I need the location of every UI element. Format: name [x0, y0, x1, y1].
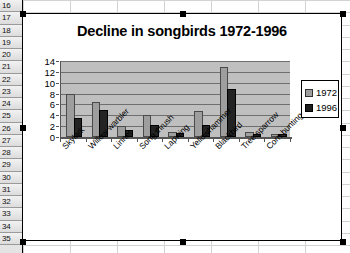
legend-swatch-icon: [305, 89, 313, 97]
x-axis-labels: SkylarkWillow warblerLinnetSong thrushLa…: [53, 140, 313, 230]
row-header-18[interactable]: 18: [0, 25, 22, 37]
chart-legend[interactable]: 19721996: [301, 80, 339, 118]
x-tick-mark: [111, 138, 112, 142]
x-tick-mark: [60, 138, 61, 142]
y-tick-mark-2: [56, 126, 59, 127]
handle-bottom-left[interactable]: [20, 239, 26, 245]
y-tick-label-4: 4: [35, 111, 55, 120]
row-header-28[interactable]: 28: [0, 147, 22, 159]
chart-title: Decline in songbirds 1972-1996: [23, 23, 341, 39]
row-header-21[interactable]: 21: [0, 61, 22, 73]
row-header-24[interactable]: 24: [0, 98, 22, 110]
x-tick-mark: [188, 138, 189, 142]
x-tick-mark: [213, 138, 214, 142]
legend-swatch-icon: [305, 104, 313, 112]
x-tick-mark: [264, 138, 265, 142]
row-header-25[interactable]: 25: [0, 110, 22, 122]
y-tick-mark-0: [56, 137, 59, 138]
x-tick-mark: [290, 138, 291, 142]
row-header-34[interactable]: 34: [0, 221, 22, 233]
row-header-23[interactable]: 23: [0, 86, 22, 98]
legend-label: 1996: [316, 103, 337, 112]
legend-label: 1972: [316, 88, 337, 97]
y-tick-label-14: 14: [35, 57, 55, 66]
grid-row-line: [23, 245, 350, 246]
chart-object[interactable]: Decline in songbirds 1972-1996 024681012…: [22, 13, 342, 241]
handle-top-right[interactable]: [340, 11, 346, 17]
row-header-22[interactable]: 22: [0, 74, 22, 86]
y-tick-mark-8: [56, 94, 59, 95]
row-header-20[interactable]: 20: [0, 49, 22, 61]
x-tick-mark: [239, 138, 240, 142]
row-header-26[interactable]: 26: [0, 123, 22, 135]
handle-top-center[interactable]: [180, 11, 186, 17]
y-tick-label-0: 0: [35, 133, 55, 142]
row-header-30[interactable]: 30: [0, 172, 22, 184]
handle-bottom-right[interactable]: [340, 239, 346, 245]
grid-row-line: [23, 0, 350, 1]
y-tick-label-12: 12: [35, 68, 55, 77]
row-header-16[interactable]: 16: [0, 0, 22, 12]
y-tick-label-10: 10: [35, 79, 55, 88]
y-tick-mark-12: [56, 72, 59, 73]
row-header-17[interactable]: 17: [0, 12, 22, 24]
y-tick-mark-14: [56, 61, 59, 62]
handle-middle-right[interactable]: [340, 125, 346, 131]
spreadsheet-chart-screen: 1617181920212223242526272829303132333435…: [0, 0, 350, 253]
handle-middle-left[interactable]: [20, 125, 26, 131]
x-tick-mark: [137, 138, 138, 142]
y-axis: 02468101214: [35, 54, 59, 144]
row-header-27[interactable]: 27: [0, 135, 22, 147]
bar-group[interactable]: [61, 61, 87, 137]
x-tick-mark: [86, 138, 87, 142]
y-tick-mark-10: [56, 83, 59, 84]
y-tick-label-6: 6: [35, 100, 55, 109]
row-header-32[interactable]: 32: [0, 196, 22, 208]
y-tick-mark-6: [56, 104, 59, 105]
y-tick-label-2: 2: [35, 122, 55, 131]
handle-bottom-center[interactable]: [180, 239, 186, 245]
y-tick-mark-4: [56, 115, 59, 116]
legend-item-1972[interactable]: 1972: [305, 88, 337, 97]
row-header-35[interactable]: 35: [0, 233, 22, 245]
legend-item-1996[interactable]: 1996: [305, 103, 337, 112]
row-header-19[interactable]: 19: [0, 37, 22, 49]
y-tick-label-8: 8: [35, 90, 55, 99]
row-header-29[interactable]: 29: [0, 159, 22, 171]
row-header-33[interactable]: 33: [0, 208, 22, 220]
handle-top-left[interactable]: [20, 11, 26, 17]
row-header-31[interactable]: 31: [0, 184, 22, 196]
x-tick-mark: [162, 138, 163, 142]
